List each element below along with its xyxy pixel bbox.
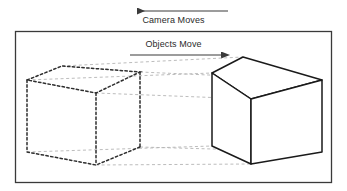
diagram-canvas: Camera Moves Objects Move <box>0 0 347 191</box>
diagram-vector-layer <box>0 0 347 191</box>
objects-moves-label: Objects Move <box>0 40 347 49</box>
camera-moves-label: Camera Moves <box>0 16 347 25</box>
solid-cube-right <box>212 57 322 164</box>
